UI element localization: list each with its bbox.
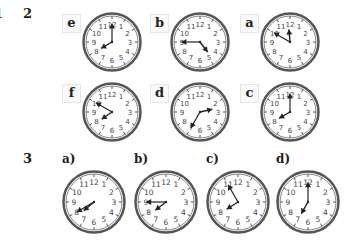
clock-numeral: 7 bbox=[279, 54, 283, 62]
clock-label-f: f bbox=[62, 84, 81, 103]
clock-numeral: 8 bbox=[218, 208, 223, 217]
clock-center-pin bbox=[199, 41, 201, 43]
clock-numeral: 1 bbox=[297, 23, 301, 31]
clock-numeral: 5 bbox=[297, 54, 301, 62]
clock-numeral: 3 bbox=[306, 39, 310, 47]
clock-numeral: 7 bbox=[154, 215, 159, 224]
clock-numeral: 2 bbox=[213, 100, 217, 108]
clock-numeral: 9 bbox=[92, 39, 96, 47]
clock-numeral: 11 bbox=[99, 93, 108, 101]
clock-center-pin bbox=[111, 41, 113, 43]
clock-label-d: d bbox=[150, 84, 169, 103]
clock-face-a: 121234567891011 bbox=[260, 12, 320, 76]
clock-numeral: 1 bbox=[246, 180, 251, 189]
clock-face-3c: 121234567891011 bbox=[206, 170, 270, 238]
clock-label-3a: a) bbox=[62, 152, 75, 166]
clock-numeral: 1 bbox=[297, 93, 301, 101]
clock-numeral: 8 bbox=[182, 118, 186, 126]
clock-numeral: 7 bbox=[101, 54, 105, 62]
clock-numeral: 11 bbox=[99, 23, 108, 31]
clock-numeral: 7 bbox=[82, 215, 87, 224]
cut-off-exercise-number: 1 bbox=[0, 6, 3, 21]
clock-numeral: 2 bbox=[253, 188, 258, 197]
clock-numeral: 11 bbox=[151, 180, 161, 189]
clock-numeral: 5 bbox=[246, 215, 251, 224]
exercise-number-3: 3 bbox=[23, 151, 32, 166]
clock-numeral: 7 bbox=[279, 124, 283, 132]
clock-numeral: 1 bbox=[316, 180, 321, 189]
clock-numeral: 12 bbox=[286, 21, 295, 29]
clock-numeral: 8 bbox=[272, 118, 276, 126]
clock-numeral: 4 bbox=[253, 208, 258, 217]
clock-numeral: 1 bbox=[174, 180, 179, 189]
clock-numeral: 7 bbox=[296, 215, 301, 224]
clock-numeral: 12 bbox=[196, 21, 205, 29]
clock-numeral: 5 bbox=[207, 54, 211, 62]
clock-numeral: 3 bbox=[216, 39, 220, 47]
clock-numeral: 2 bbox=[213, 30, 217, 38]
clock-face-b: 121234567891011 bbox=[170, 12, 230, 76]
clock-numeral: 6 bbox=[236, 218, 241, 227]
clock-numeral: 9 bbox=[286, 198, 291, 207]
clock-label-3b: b) bbox=[134, 152, 148, 166]
clock-numeral: 4 bbox=[181, 208, 186, 217]
clock-numeral: 1 bbox=[119, 93, 123, 101]
clock-numeral: 9 bbox=[180, 109, 184, 117]
clock-numeral: 12 bbox=[89, 178, 99, 187]
clock-center-pin bbox=[289, 41, 291, 43]
clock-face-d: 121234567891011 bbox=[170, 82, 230, 146]
clock-numeral: 12 bbox=[196, 91, 205, 99]
clock-face-3d: 121234567891011 bbox=[276, 170, 340, 238]
clock-face-3a: 121234567891011 bbox=[62, 170, 126, 238]
clock-label-3d: d) bbox=[276, 152, 290, 166]
clock-numeral: 7 bbox=[189, 54, 193, 62]
clock-face-3b: 121234567891011 bbox=[134, 170, 198, 238]
clock-numeral: 5 bbox=[207, 124, 211, 132]
exercise-number-2: 2 bbox=[23, 6, 32, 21]
clock-numeral: 4 bbox=[125, 48, 130, 56]
clock-numeral: 1 bbox=[119, 23, 123, 31]
clock-face-e: 121234567891011 bbox=[82, 12, 142, 76]
clock-center-pin bbox=[307, 201, 309, 203]
clock-numeral: 4 bbox=[109, 208, 114, 217]
clock-label-c: c bbox=[240, 84, 259, 103]
clock-center-pin bbox=[111, 111, 113, 113]
clock-numeral: 3 bbox=[216, 109, 220, 117]
clock-numeral: 9 bbox=[270, 109, 274, 117]
clock-numeral: 6 bbox=[198, 57, 203, 65]
clock-numeral: 9 bbox=[270, 39, 274, 47]
clock-numeral: 11 bbox=[187, 23, 196, 31]
clock-numeral: 3 bbox=[184, 198, 189, 207]
clock-numeral: 6 bbox=[306, 218, 311, 227]
clock-label-e: e bbox=[62, 14, 81, 33]
clock-numeral: 3 bbox=[112, 198, 117, 207]
clock-numeral: 5 bbox=[119, 124, 123, 132]
clock-numeral: 5 bbox=[316, 215, 321, 224]
clock-numeral: 8 bbox=[288, 208, 293, 217]
clock-face-c: 121234567891011 bbox=[260, 82, 320, 146]
clock-label-b: b bbox=[150, 14, 169, 33]
clock-numeral: 6 bbox=[288, 57, 293, 65]
clock-numeral: 8 bbox=[182, 48, 186, 56]
clock-numeral: 11 bbox=[79, 180, 89, 189]
clock-numeral: 5 bbox=[102, 215, 107, 224]
clock-numeral: 8 bbox=[272, 48, 276, 56]
clock-numeral: 11 bbox=[293, 180, 303, 189]
clock-numeral: 9 bbox=[72, 198, 77, 207]
clock-numeral: 8 bbox=[146, 208, 151, 217]
clock-center-pin bbox=[165, 201, 167, 203]
clock-numeral: 3 bbox=[128, 109, 132, 117]
clock-numeral: 11 bbox=[277, 23, 286, 31]
clock-center-pin bbox=[93, 201, 95, 203]
clock-numeral: 3 bbox=[306, 109, 310, 117]
clock-numeral: 11 bbox=[187, 93, 196, 101]
clock-numeral: 3 bbox=[256, 198, 261, 207]
clock-numeral: 6 bbox=[110, 57, 115, 65]
clock-numeral: 1 bbox=[102, 180, 107, 189]
clock-numeral: 6 bbox=[198, 127, 203, 135]
clock-numeral: 2 bbox=[181, 188, 186, 197]
clock-numeral: 1 bbox=[207, 93, 211, 101]
clock-numeral: 2 bbox=[323, 188, 328, 197]
clock-numeral: 6 bbox=[164, 218, 169, 227]
clock-numeral: 7 bbox=[101, 124, 105, 132]
